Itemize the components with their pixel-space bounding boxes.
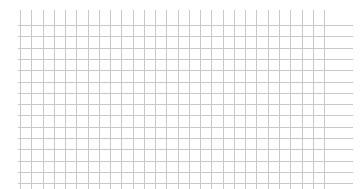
empty-chart-grid xyxy=(0,0,360,189)
